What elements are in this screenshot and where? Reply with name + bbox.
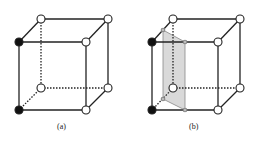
vertex-open xyxy=(214,38,222,46)
vertex-open xyxy=(236,15,244,23)
vertex-filled xyxy=(15,106,23,114)
vertex-open xyxy=(37,84,45,92)
vertex-open xyxy=(104,15,112,23)
vertex-open xyxy=(214,106,222,114)
vertex-open xyxy=(82,106,90,114)
vertex-open xyxy=(37,15,45,23)
vertex-open xyxy=(169,15,177,23)
panel-label-a: (a) xyxy=(57,122,66,131)
cube-a xyxy=(15,15,112,114)
cube-diagram xyxy=(0,0,260,148)
vertex-open xyxy=(169,84,177,92)
vertex-open xyxy=(82,38,90,46)
cube-b xyxy=(148,15,244,114)
vertex-filled xyxy=(148,38,156,46)
panel-label-b: (b) xyxy=(189,122,198,131)
vertex-open xyxy=(104,84,112,92)
vertex-filled xyxy=(148,106,156,114)
vertex-open xyxy=(236,84,244,92)
vertex-filled xyxy=(15,38,23,46)
